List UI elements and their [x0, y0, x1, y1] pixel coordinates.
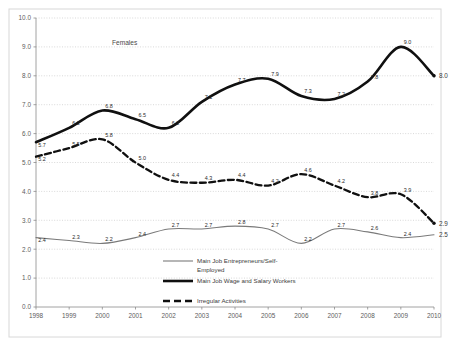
x-tick-label: 2004	[228, 312, 243, 319]
x-tick-label: 2009	[394, 312, 409, 319]
data-point-label: 2.7	[271, 222, 279, 228]
y-tick-label: 6.0	[22, 130, 31, 137]
data-point-label: 2.7	[172, 222, 180, 228]
data-point-label: 4.6	[304, 167, 312, 173]
data-point-label: 2.6	[371, 225, 379, 231]
data-point-label: 7.8	[371, 74, 379, 80]
data-point-label: 2.4	[38, 237, 46, 243]
data-point-label: 5.8	[105, 132, 113, 138]
line-chart: 1998199920002001200220032004200520062007…	[0, 0, 450, 346]
y-tick-label: 7.0	[22, 101, 31, 108]
data-point-label: 5.7	[38, 142, 46, 148]
data-point-label: 4.4	[172, 172, 180, 178]
series-end-marker	[432, 221, 435, 224]
x-tick-label: 2008	[361, 312, 376, 319]
data-point-label: 7.7	[238, 77, 246, 83]
x-tick-label: 1998	[29, 312, 44, 319]
legend-label[interactable]: Irregular Activities	[197, 297, 246, 304]
data-point-label: 5.0	[139, 155, 147, 161]
data-point-label: 4.3	[205, 175, 213, 181]
y-tick-label: 10.0	[19, 14, 32, 21]
x-tick-label: 2002	[162, 312, 177, 319]
data-point-label: 7.1	[205, 94, 213, 100]
y-tick-label: 0.0	[22, 303, 31, 310]
series-end-label: 2.5	[439, 231, 448, 238]
x-tick-label: 2001	[128, 312, 143, 319]
y-tick-label: 4.0	[22, 188, 31, 195]
x-tick-label: 2010	[427, 312, 442, 319]
data-point-label: 4.2	[271, 178, 279, 184]
data-point-label: 2.4	[404, 231, 412, 237]
y-tick-label: 8.0	[22, 72, 31, 79]
data-point-label: 4.4	[238, 172, 246, 178]
y-tick-label: 9.0	[22, 43, 31, 50]
chart-border	[9, 9, 441, 337]
data-point-label: 2.7	[338, 222, 346, 228]
data-point-label: 3.8	[371, 190, 379, 196]
x-tick-label: 2003	[195, 312, 210, 319]
legend-label-continued[interactable]: Employed	[197, 266, 225, 273]
data-point-label: 6.5	[139, 112, 147, 118]
series-end-label: 8.0	[439, 72, 448, 79]
data-point-label: 4.2	[338, 178, 346, 184]
series-end-marker	[432, 74, 435, 77]
data-point-label: 6.2	[172, 120, 180, 126]
data-point-label: 5.5	[72, 141, 80, 147]
data-point-label: 2.7	[205, 222, 213, 228]
x-tick-label: 2005	[261, 312, 276, 319]
data-point-label: 2.8	[238, 219, 246, 225]
legend-label[interactable]: Main Job Entrepreneurs/Self-	[197, 257, 277, 264]
data-point-label: 5.2	[38, 156, 46, 162]
data-point-label: 6.8	[105, 103, 113, 109]
data-point-label: 7.2	[338, 91, 346, 97]
legend-label[interactable]: Main Job Wage and Salary Workers	[197, 277, 296, 284]
y-tick-label: 3.0	[22, 217, 31, 224]
data-point-label: 7.3	[304, 88, 312, 94]
y-tick-label: 2.0	[22, 246, 31, 253]
data-point-label: 2.2	[304, 236, 312, 242]
data-point-label: 2.3	[72, 234, 80, 240]
series-end-label: 2.9	[439, 220, 448, 227]
data-point-label: 9.0	[404, 39, 412, 45]
y-tick-label: 5.0	[22, 159, 31, 166]
x-tick-label: 2007	[327, 312, 342, 319]
y-tick-label: 1.0	[22, 274, 31, 281]
x-tick-label: 2006	[294, 312, 309, 319]
x-tick-label: 2000	[95, 312, 110, 319]
annotation-females: Females	[112, 39, 138, 46]
data-point-label: 2.2	[105, 236, 113, 242]
x-tick-label: 1999	[62, 312, 77, 319]
data-point-label: 2.4	[139, 231, 147, 237]
data-point-label: 3.9	[404, 187, 412, 193]
chart-container: 1998199920002001200220032004200520062007…	[0, 0, 450, 346]
data-point-label: 6.2	[72, 120, 80, 126]
data-point-label: 7.9	[271, 71, 279, 77]
